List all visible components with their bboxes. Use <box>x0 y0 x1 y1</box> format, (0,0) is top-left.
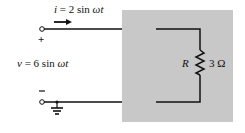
resistor-value: 3 Ω <box>209 57 225 69</box>
top-terminal <box>40 27 45 32</box>
voltage-label: v = 6 sin ωt <box>17 57 69 69</box>
circuit-diagram: i = 2 sin ωt + v = 6 sin ωt R 3 Ω <box>0 0 245 133</box>
resistor-name: R <box>181 57 189 69</box>
current-arrow-icon <box>54 19 72 25</box>
current-label: i = 2 sin ωt <box>54 3 104 15</box>
plus-sign: + <box>38 33 44 45</box>
bottom-terminal <box>40 100 45 105</box>
